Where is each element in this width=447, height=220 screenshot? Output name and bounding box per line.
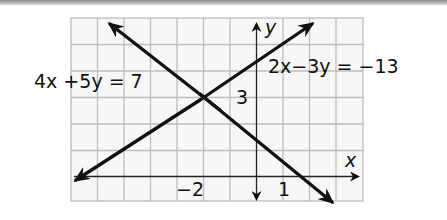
equation-label-line1: 4x +5y = 7 <box>34 72 143 91</box>
coordinate-graph <box>0 0 447 220</box>
x-axis-label: x <box>345 151 356 170</box>
tick-label-1: 1 <box>278 180 290 199</box>
tick-label-neg2: −2 <box>176 180 204 199</box>
tick-label-3: 3 <box>236 88 248 107</box>
equation-label-line2: 2x−3y = −13 <box>268 57 399 76</box>
y-axis-label: y <box>265 18 276 37</box>
